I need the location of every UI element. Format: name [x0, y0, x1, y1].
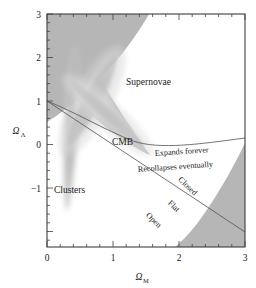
y-axis-title-main: Ω	[13, 126, 20, 136]
y-tick-label-0: 0	[36, 140, 41, 150]
x-axis-title: Ω M	[136, 272, 150, 284]
y-tick-label-1: 1	[36, 97, 41, 107]
label-clusters: Clusters	[54, 185, 85, 195]
x-tick-label-2: 2	[177, 253, 182, 263]
label-supernovae: Supernovae	[126, 77, 171, 87]
label-cmb: CMB	[112, 137, 133, 147]
x-tick-label-1: 1	[111, 253, 116, 263]
x-axis-title-main: Ω	[136, 272, 143, 282]
y-tick-label-3: 3	[36, 10, 41, 20]
cosmology-constraint-figure: 0 1 2 3 3 2 1 0 −1 Ω M Ω Λ Supernovae CM…	[0, 0, 256, 288]
x-tick-label-0: 0	[45, 253, 50, 263]
y-axis-title: Ω Λ	[13, 126, 26, 138]
y-axis-title-sub: Λ	[21, 131, 26, 138]
x-tick-label-3: 3	[243, 253, 248, 263]
y-tick-label-neg1: −1	[31, 184, 41, 194]
plot-svg: 0 1 2 3 3 2 1 0 −1 Ω M Ω Λ Supernovae CM…	[0, 0, 256, 288]
x-axis-title-sub: M	[143, 277, 149, 284]
y-tick-label-2: 2	[36, 53, 41, 63]
